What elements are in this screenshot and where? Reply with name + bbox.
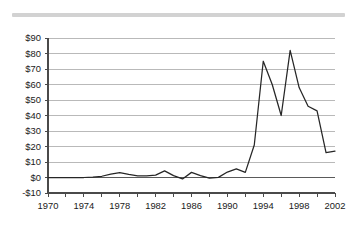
y-tick-label: $80 xyxy=(25,48,41,59)
x-tick-label: 1974 xyxy=(73,200,94,211)
x-tick-label: 1990 xyxy=(217,200,238,211)
x-axis-tick-labels: 197019741978198219861990199419982002 xyxy=(38,200,346,211)
x-tick-label: 1986 xyxy=(181,200,202,211)
y-axis-tick-labels: $90$80$70$60$50$40$30$20$10$0-$10 xyxy=(22,32,41,198)
y-tick-label: -$10 xyxy=(22,187,41,198)
y-tick-label: $0 xyxy=(31,172,41,183)
y-tick-label: $10 xyxy=(25,156,41,167)
y-tick-label: $20 xyxy=(25,141,41,152)
y-tick-label: $70 xyxy=(25,63,41,74)
y-tick-label: $30 xyxy=(25,125,41,136)
line-chart-figure: $90$80$70$60$50$40$30$20$10$0-$10 197019… xyxy=(0,22,352,230)
y-tick-label: $60 xyxy=(25,79,41,90)
chart-page: $90$80$70$60$50$40$30$20$10$0-$10 197019… xyxy=(0,0,352,230)
chart-canvas: $90$80$70$60$50$40$30$20$10$0-$10 197019… xyxy=(0,22,352,230)
x-tick-label: 1994 xyxy=(253,200,274,211)
data-series-line xyxy=(48,50,335,179)
x-tick-label: 1982 xyxy=(145,200,166,211)
y-tick-label: $40 xyxy=(25,110,41,121)
top-divider-rule xyxy=(12,13,345,17)
y-tick-label: $90 xyxy=(25,32,41,43)
x-tick-label: 2002 xyxy=(325,200,346,211)
x-tick-label: 1970 xyxy=(38,200,59,211)
x-tick-label: 1998 xyxy=(289,200,310,211)
y-tick-label: $50 xyxy=(25,94,41,105)
x-tick-label: 1978 xyxy=(109,200,130,211)
gridlines-group xyxy=(48,38,335,193)
